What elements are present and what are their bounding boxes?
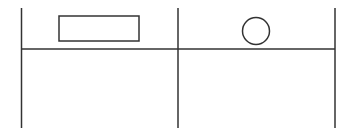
rectangle-shape [59,16,139,41]
circle-shape [243,18,270,45]
diagram-canvas [0,0,356,130]
